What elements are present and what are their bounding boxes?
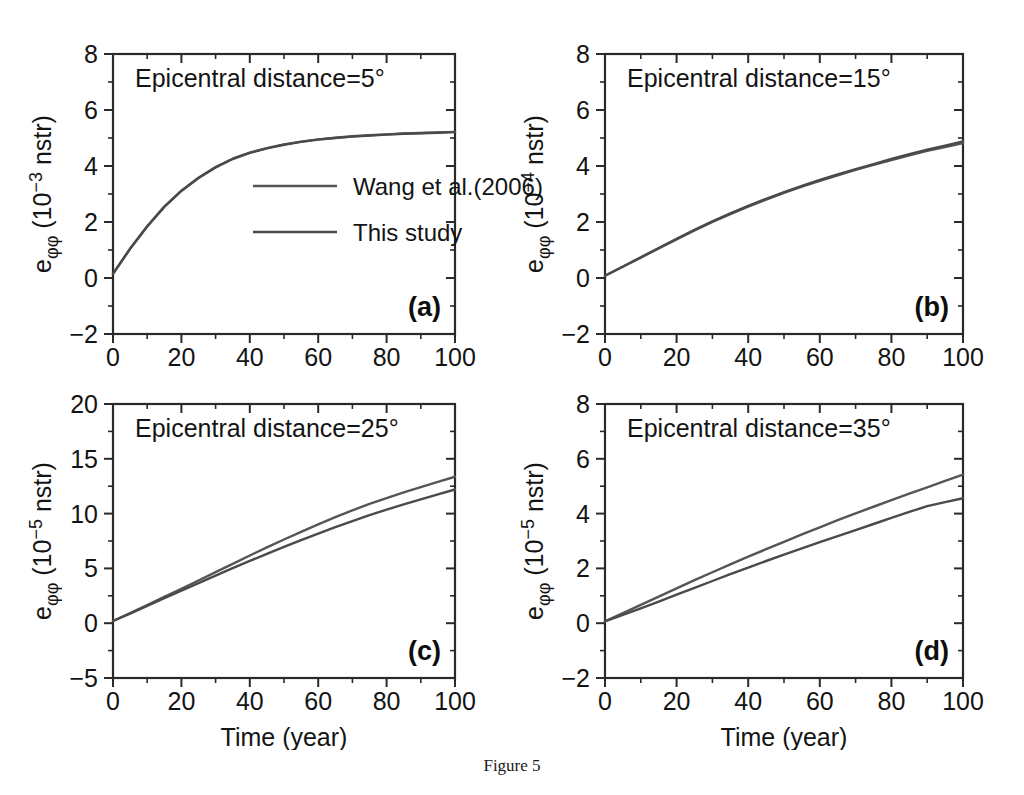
y-axis-title-mid: (10 (520, 193, 548, 236)
y-axis-title-base: e (28, 606, 56, 620)
y-axis-title-exponent: −4 (518, 172, 538, 193)
y-axis-title-subscript: φφ (42, 236, 62, 259)
y-axis-title-base: e (520, 606, 548, 620)
y-axis-title: eφφ (10−4 nstr) (518, 115, 554, 273)
series-line-wang (605, 143, 963, 276)
panel-d: 020406080100−202468eφφ (10−5 nstr)Time (… (518, 390, 984, 750)
panel-annotation: Epicentral distance=25° (135, 414, 399, 442)
x-tick-label: 0 (106, 343, 120, 371)
y-tick-label: 15 (70, 445, 98, 473)
x-tick-label: 80 (877, 687, 905, 715)
y-tick-label: 6 (576, 445, 590, 473)
y-axis-title-exponent: −5 (518, 519, 538, 540)
panel-c: 020406080100−505101520eφφ (10−5 nstr)Tim… (26, 390, 476, 750)
y-axis-title-tail: nstr) (28, 462, 56, 519)
x-tick-label: 80 (373, 687, 401, 715)
x-tick-label: 40 (734, 687, 762, 715)
panel-tag: (c) (408, 636, 441, 666)
x-tick-label: 60 (304, 687, 332, 715)
y-axis-title-subscript: φφ (534, 236, 554, 259)
y-tick-label: 0 (84, 264, 98, 292)
x-tick-label: 100 (434, 343, 476, 371)
figure-plots: 020406080100−202468eφφ (10−3 nstr)Epicen… (0, 0, 1024, 750)
x-tick-label: 20 (167, 687, 195, 715)
panel-annotation: Epicentral distance=35° (627, 414, 891, 442)
panel-b: 020406080100−202468eφφ (10−4 nstr)Epicen… (518, 40, 984, 371)
y-axis-title: eφφ (10−3 nstr) (26, 115, 62, 273)
x-tick-label: 40 (734, 343, 762, 371)
series-line-this-study (605, 141, 963, 275)
y-axis-title-subscript: φφ (534, 583, 554, 606)
y-tick-label: 4 (576, 500, 590, 528)
y-tick-label: −2 (561, 664, 590, 692)
y-axis-title: eφφ (10−5 nstr) (518, 462, 554, 620)
x-tick-label: 0 (106, 687, 120, 715)
y-tick-label: 5 (84, 554, 98, 582)
x-axis-title: Time (year) (721, 723, 848, 750)
y-axis-title-mid: (10 (28, 193, 56, 236)
y-tick-label: 0 (576, 264, 590, 292)
x-tick-label: 40 (236, 687, 264, 715)
y-axis-title-mid: (10 (520, 540, 548, 583)
y-axis-title-tail: nstr) (28, 115, 56, 172)
x-tick-label: 20 (663, 687, 691, 715)
panel-tag: (a) (408, 292, 441, 322)
x-tick-label: 100 (942, 687, 984, 715)
panel-tag: (d) (915, 636, 949, 666)
y-axis-title-subscript: φφ (42, 583, 62, 606)
y-tick-label: 4 (84, 152, 98, 180)
y-axis-title-mid: (10 (28, 540, 56, 583)
y-tick-label: 2 (576, 208, 590, 236)
y-tick-label: 10 (70, 500, 98, 528)
legend-label: This study (353, 219, 462, 246)
x-tick-label: 60 (806, 343, 834, 371)
series-line-this-study (113, 132, 455, 274)
y-tick-label: 8 (84, 40, 98, 68)
figure-container: 020406080100−202468eφφ (10−3 nstr)Epicen… (0, 0, 1024, 795)
y-tick-label: 2 (576, 554, 590, 582)
y-axis-title-base: e (28, 259, 56, 273)
figure-caption: Figure 5 (0, 756, 1024, 776)
y-axis-title-base: e (520, 259, 548, 273)
x-tick-label: 0 (598, 343, 612, 371)
panel-a: 020406080100−202468eφφ (10−3 nstr)Epicen… (26, 40, 543, 371)
series-line-wang (605, 475, 963, 622)
x-tick-label: 100 (434, 687, 476, 715)
x-tick-label: 60 (806, 687, 834, 715)
y-tick-label: 6 (84, 96, 98, 124)
y-axis-title-exponent: −5 (26, 519, 46, 540)
y-tick-label: 8 (576, 390, 590, 418)
y-axis-title-tail: nstr) (520, 462, 548, 519)
legend-label: Wang et al.(2006) (353, 173, 543, 200)
x-tick-label: 40 (236, 343, 264, 371)
y-tick-label: 0 (576, 609, 590, 637)
y-tick-label: 2 (84, 208, 98, 236)
y-tick-label: 6 (576, 96, 590, 124)
y-tick-label: −5 (69, 664, 98, 692)
y-tick-label: −2 (69, 320, 98, 348)
series-line-this-study (605, 498, 963, 621)
panel-tag: (b) (915, 292, 949, 322)
y-axis-title: eφφ (10−5 nstr) (26, 462, 62, 620)
figure-caption-wrap: Figure 5 (0, 756, 1024, 776)
x-tick-label: 80 (373, 343, 401, 371)
y-tick-label: 0 (84, 609, 98, 637)
x-tick-label: 20 (663, 343, 691, 371)
x-tick-label: 80 (877, 343, 905, 371)
x-tick-label: 100 (942, 343, 984, 371)
y-tick-label: 20 (70, 390, 98, 418)
y-tick-label: −2 (561, 320, 590, 348)
x-axis-title: Time (year) (221, 723, 348, 750)
y-axis-title-exponent: −3 (26, 172, 46, 193)
panel-annotation: Epicentral distance=15° (627, 64, 891, 92)
panel-annotation: Epicentral distance=5° (135, 64, 385, 92)
y-tick-label: 8 (576, 40, 590, 68)
y-tick-label: 4 (576, 152, 590, 180)
y-axis-title-tail: nstr) (520, 115, 548, 172)
plot-frame (113, 404, 455, 678)
x-tick-label: 0 (598, 687, 612, 715)
x-tick-label: 60 (304, 343, 332, 371)
series-line-wang (113, 132, 455, 274)
series-line-this-study (113, 489, 455, 621)
x-tick-label: 20 (167, 343, 195, 371)
